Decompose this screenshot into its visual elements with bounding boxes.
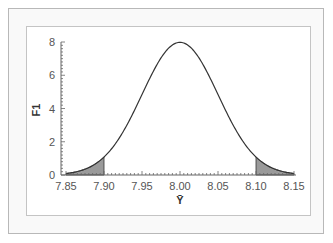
x-tick-label: 8.10 bbox=[245, 180, 266, 192]
x-tick-label: 8.15 bbox=[283, 180, 304, 192]
y-tick-label: 0 bbox=[49, 169, 55, 181]
y-tick-label: 8 bbox=[49, 36, 55, 48]
x-tick-label: 7.85 bbox=[55, 180, 76, 192]
x-axis-title: Ȳ bbox=[176, 194, 184, 206]
y-tick-label: 4 bbox=[49, 103, 55, 115]
x-tick-label: 7.90 bbox=[93, 180, 114, 192]
x-tick-label: 8.00 bbox=[169, 180, 190, 192]
x-tick-label: 8.05 bbox=[207, 180, 228, 192]
y-tick-label: 2 bbox=[49, 136, 55, 148]
density-curve bbox=[66, 42, 294, 173]
y-tick-label: 6 bbox=[49, 69, 55, 81]
normal-distribution-chart: 024687.857.907.958.008.058.108.15 F1 Ȳ bbox=[0, 0, 333, 243]
x-tick-label: 7.95 bbox=[131, 180, 152, 192]
y-axis-title: F1 bbox=[30, 104, 42, 117]
